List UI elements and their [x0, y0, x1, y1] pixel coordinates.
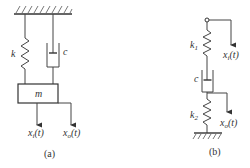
- input-xi-label: xi(t): [27, 127, 45, 140]
- spring-k2-icon: [203, 92, 211, 133]
- panel-a: k c m xi(t) xo(t) (a): [11, 6, 81, 160]
- spring-k1-icon: [203, 22, 211, 66]
- panel-b-caption: (b): [209, 146, 221, 158]
- output-xo-label: xo(t): [219, 117, 238, 130]
- output-arrow-icon: [58, 103, 71, 125]
- spring-k2-label: k2: [190, 109, 198, 122]
- output-xo-label: xo(t): [62, 127, 81, 140]
- ground-icon: [193, 133, 222, 139]
- input-xi-label: xi(t): [222, 49, 240, 62]
- panel-b: xi(t) k1 c xo(t) k2: [190, 18, 240, 158]
- damper-c-label: c: [63, 46, 68, 57]
- spring-k-icon: [21, 14, 29, 84]
- damper-c-label: c: [194, 73, 199, 84]
- mass-m-label: m: [35, 88, 42, 99]
- input-terminal-icon: [205, 18, 209, 22]
- input-arrow-icon: [209, 20, 231, 45]
- ceiling-ground-icon: [14, 6, 72, 14]
- mechanical-systems-diagram: k c m xi(t) xo(t) (a) xi(t) k1: [0, 0, 250, 168]
- spring-k1-label: k1: [190, 39, 198, 52]
- damper-c-icon: [47, 14, 59, 84]
- panel-a-caption: (a): [44, 148, 55, 160]
- spring-k-label: k: [11, 48, 16, 59]
- damper-c-icon: [202, 66, 213, 92]
